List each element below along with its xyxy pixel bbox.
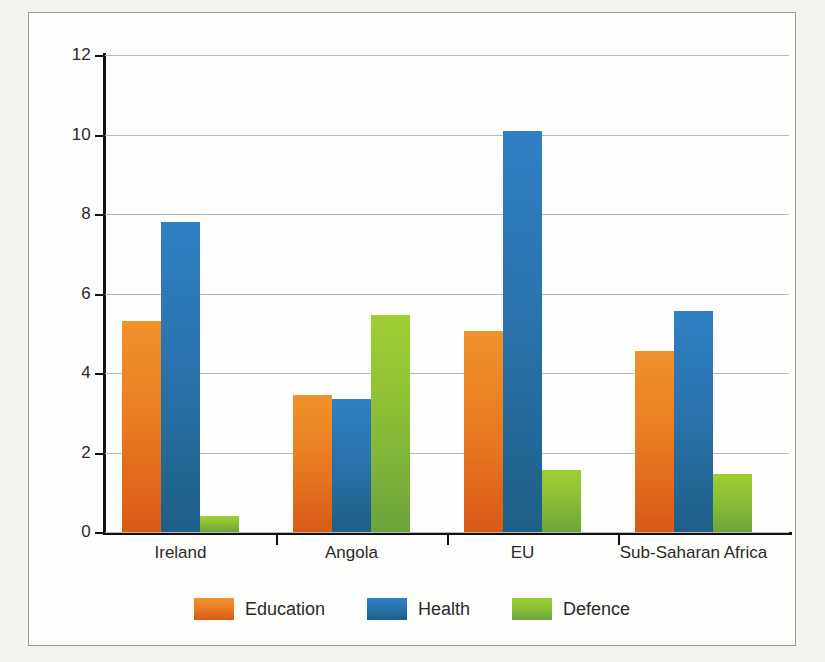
bar-angola-health — [332, 399, 371, 532]
bar-angola-defence — [371, 315, 410, 532]
gridline — [105, 532, 789, 533]
y-tick-mark — [95, 373, 104, 375]
y-tick-mark — [95, 55, 104, 57]
y-tick-label-wrap: 6 — [39, 284, 91, 302]
y-tick-mark — [95, 294, 104, 296]
bar-ireland-defence — [200, 516, 239, 532]
y-tick-label-wrap: 2 — [39, 443, 91, 461]
y-tick-label: 4 — [51, 363, 91, 383]
plot-area — [105, 55, 789, 532]
health-swatch — [367, 598, 407, 620]
gridline — [105, 135, 789, 136]
gridline — [105, 55, 789, 56]
y-tick-label: 8 — [51, 204, 91, 224]
bar-ireland-education — [122, 321, 161, 532]
legend-item-health[interactable]: Health — [367, 598, 470, 620]
y-tick-label-wrap: 8 — [39, 204, 91, 222]
bar-sub-saharan-africa-health — [674, 311, 713, 532]
y-tick-mark — [95, 453, 104, 455]
bar-ireland-health — [161, 222, 200, 532]
y-tick-label-wrap: 4 — [39, 363, 91, 381]
chart-frame: 024681012 IrelandAngolaEUSub-Saharan Afr… — [28, 12, 796, 646]
defence-swatch — [512, 598, 552, 620]
gridline — [105, 294, 789, 295]
x-axis-label-angola: Angola — [253, 543, 450, 563]
legend-item-defence[interactable]: Defence — [512, 598, 630, 620]
legend-label-defence: Defence — [563, 599, 630, 620]
bar-eu-defence — [542, 470, 581, 532]
y-tick-mark — [95, 135, 104, 137]
bar-eu-education — [464, 331, 503, 532]
bar-eu-health — [503, 131, 542, 532]
legend-label-health: Health — [418, 599, 470, 620]
chart-figure: 024681012 IrelandAngolaEUSub-Saharan Afr… — [0, 0, 825, 662]
y-tick-label: 0 — [51, 522, 91, 542]
gridline — [105, 214, 789, 215]
y-tick-mark — [95, 532, 104, 534]
y-tick-label: 12 — [51, 45, 91, 65]
x-axis-label-sub-saharan-africa: Sub-Saharan Africa — [595, 543, 792, 563]
y-tick-label-wrap: 12 — [39, 45, 91, 63]
y-tick-label: 10 — [51, 125, 91, 145]
x-axis-label-eu: EU — [424, 543, 621, 563]
bar-angola-education — [293, 395, 332, 532]
y-tick-label: 2 — [51, 443, 91, 463]
x-axis-label-ireland: Ireland — [82, 543, 279, 563]
legend-item-education[interactable]: Education — [194, 598, 325, 620]
legend-label-education: Education — [245, 599, 325, 620]
education-swatch — [194, 598, 234, 620]
y-tick-label: 6 — [51, 284, 91, 304]
y-tick-mark — [95, 214, 104, 216]
bar-sub-saharan-africa-defence — [713, 474, 752, 532]
y-tick-label-wrap: 10 — [39, 125, 91, 143]
chart-legend: EducationHealthDefence — [29, 598, 795, 620]
y-tick-label-wrap: 0 — [39, 522, 91, 540]
bar-sub-saharan-africa-education — [635, 351, 674, 532]
